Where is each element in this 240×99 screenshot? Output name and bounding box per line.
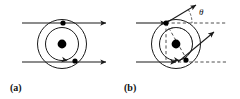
panel-a-nucleus: [58, 40, 67, 49]
panel-a-upper-particle: [60, 20, 65, 25]
scattering-figure: (a)θ(b): [0, 0, 240, 99]
figure-background: [0, 0, 240, 99]
panel-b-caption: (b): [124, 82, 136, 94]
panel-a-caption: (a): [10, 82, 22, 94]
panel-b-lower-particle: [183, 57, 188, 62]
panel-b-theta-label: θ: [199, 7, 204, 17]
figure-canvas: (a)θ(b): [0, 0, 240, 99]
panel-b-upper-particle: [163, 20, 168, 25]
panel-a-lower-particle: [72, 58, 77, 63]
panel-b-nucleus: [172, 40, 181, 49]
